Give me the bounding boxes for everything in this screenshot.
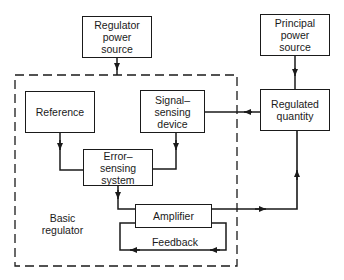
block-label: Regulator power source (94, 19, 140, 55)
block-amplifier: Amplifier (135, 204, 212, 228)
wire-amplifier-to-regulated (212, 131, 297, 209)
block-signal-sensing-device: Signal– sensing device (140, 90, 205, 133)
block-label: Amplifier (153, 210, 194, 222)
block-reference: Reference (25, 91, 95, 133)
block-label: Signal– sensing device (154, 94, 190, 130)
block-regulator-power-source: Regulator power source (82, 16, 152, 58)
block-label: Regulated quantity (271, 98, 319, 122)
block-principal-power-source: Principal power source (260, 14, 330, 56)
feedback-label: Feedback (140, 236, 210, 248)
block-label: Error– sensing system (100, 150, 136, 186)
block-error-sensing-system: Error– sensing system (83, 149, 153, 186)
block-label: Principal power source (275, 17, 315, 53)
wire-reference-to-error (60, 133, 83, 170)
basic-regulator-label: Basic regulator (35, 212, 90, 236)
block-label: Reference (36, 106, 84, 118)
wire-error-to-amplifier (118, 186, 135, 209)
wire-signal-to-error (153, 133, 176, 169)
block-regulated-quantity: Regulated quantity (260, 89, 330, 131)
